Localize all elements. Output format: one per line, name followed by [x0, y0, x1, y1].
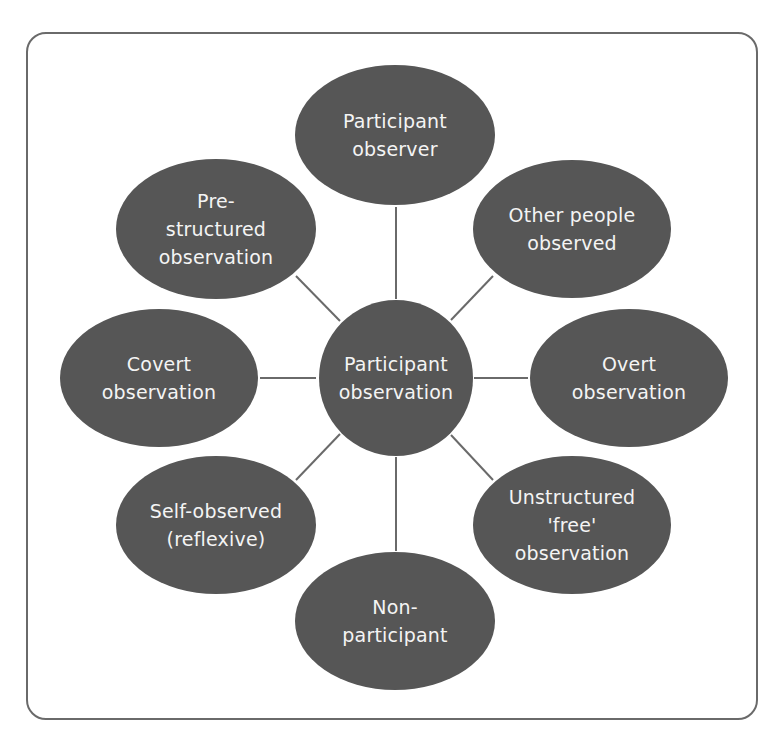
- node-label-line: Non-: [372, 593, 418, 621]
- node-label-line: Other people: [509, 201, 636, 229]
- node-label-line: observer: [352, 135, 437, 163]
- node-label-line: Participant: [343, 107, 447, 135]
- node-self-observed-reflexive: Self-observed(reflexive): [116, 456, 316, 594]
- node-label-line: observed: [527, 229, 617, 257]
- connector-line: [296, 276, 340, 321]
- node-label-line: structured: [166, 215, 266, 243]
- node-label-line: Unstructured: [509, 483, 636, 511]
- node-unstructured-free-observation: Unstructured'free'observation: [473, 456, 671, 594]
- node-label-line: observation: [339, 378, 454, 406]
- central-node: Participantobservation: [319, 300, 473, 456]
- node-label-line: 'free': [547, 511, 596, 539]
- node-label-line: observation: [515, 539, 630, 567]
- node-label-line: Overt: [602, 350, 656, 378]
- node-label-line: Pre-: [197, 187, 235, 215]
- node-pre-structured-observation: Pre-structuredobservation: [116, 159, 316, 299]
- node-overt-observation: Overtobservation: [530, 309, 728, 447]
- connector-line: [296, 434, 340, 480]
- node-label-line: (reflexive): [167, 525, 266, 553]
- node-label-line: Covert: [127, 350, 191, 378]
- node-other-people-observed: Other peopleobserved: [473, 160, 671, 298]
- node-label-line: observation: [102, 378, 217, 406]
- node-participant-observer: Participantobserver: [295, 65, 495, 205]
- node-label-line: Participant: [344, 350, 448, 378]
- node-label-line: observation: [159, 243, 274, 271]
- node-label-line: participant: [342, 621, 447, 649]
- node-covert-observation: Covertobservation: [60, 309, 258, 447]
- node-label-line: Self-observed: [150, 497, 283, 525]
- node-non-participant: Non-participant: [295, 552, 495, 690]
- connector-line: [451, 435, 493, 480]
- node-label-line: observation: [572, 378, 687, 406]
- connector-line: [451, 276, 493, 320]
